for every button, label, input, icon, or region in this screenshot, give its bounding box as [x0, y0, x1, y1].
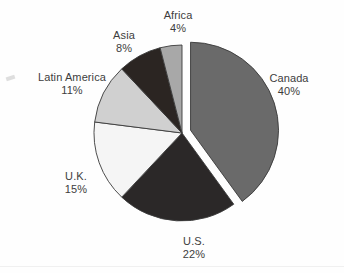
pie-label-value-latin-america: 11% [38, 84, 106, 97]
pie-label-africa: Africa4% [164, 9, 193, 35]
pie-label-name-asia: Asia [113, 29, 135, 42]
scan-line-bottom [0, 266, 344, 267]
pie-label-name-canada: Canada [269, 72, 308, 85]
pie-label-name-u-k: U.K. [65, 170, 87, 183]
pie-label-u-k: U.K.15% [65, 170, 87, 196]
pie-label-asia: Asia8% [113, 29, 135, 55]
pie-label-value-africa: 4% [164, 22, 193, 35]
pie-slices-group [94, 42, 279, 221]
pie-label-value-u-k: 15% [65, 183, 87, 196]
pie-chart-canvas [0, 0, 344, 273]
pie-label-value-canada: 40% [269, 85, 308, 98]
pie-label-u-s: U.S.22% [183, 235, 205, 261]
pie-label-name-latin-america: Latin America [38, 71, 106, 84]
pie-label-value-asia: 8% [113, 42, 135, 55]
pie-chart-figure: Canada40%U.S.22%U.K.15%Latin America11%A… [0, 0, 344, 273]
pie-label-value-u-s: 22% [183, 248, 205, 261]
pie-label-canada: Canada40% [269, 72, 308, 98]
pie-label-name-africa: Africa [164, 9, 193, 22]
pie-label-latin-america: Latin America11% [38, 71, 106, 97]
pie-label-name-u-s: U.S. [183, 235, 205, 248]
